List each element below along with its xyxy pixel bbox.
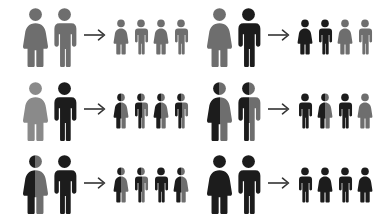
produces-arrow-icon [267,26,293,44]
cross-panel-2-2 [184,74,368,148]
offspring-group [297,19,373,55]
parent-female-figure [206,7,233,68]
offspring-female-figure [113,19,129,55]
parent-female-figure [22,7,49,68]
cross-panel-2-1 [0,74,184,148]
parent-pair [22,154,78,215]
parent-pair [206,7,262,68]
cross-panel-3-1 [0,148,184,221]
offspring-female-figure [297,19,313,55]
offspring-male-figure [317,19,333,55]
offspring-group [297,93,373,129]
offspring-female-figure [337,19,353,55]
offspring-male-figure [337,167,353,203]
parent-pair [206,154,262,215]
parent-male-figure [51,81,78,142]
offspring-male-figure [133,93,149,129]
parent-female-figure [206,154,233,215]
produces-arrow-icon [83,174,109,192]
cross-panel-1-1 [0,0,184,74]
offspring-group [297,167,373,203]
offspring-male-figure [297,167,313,203]
parent-male-figure [235,7,262,68]
produces-arrow-icon [83,26,109,44]
cross-panel-3-2 [184,148,368,221]
offspring-male-figure [357,19,373,55]
offspring-male-figure [337,93,353,129]
parent-pair [22,7,78,68]
parent-female-figure [206,81,233,142]
parent-female-figure [22,81,49,142]
offspring-female-figure [317,167,333,203]
parent-pair [206,81,262,142]
offspring-group [113,167,189,203]
produces-arrow-icon [267,100,293,118]
offspring-female-figure [357,93,373,129]
offspring-female-figure [153,19,169,55]
parent-male-figure [235,81,262,142]
offspring-male-figure [133,19,149,55]
cross-panel-1-2 [184,0,368,74]
offspring-female-figure [153,93,169,129]
offspring-group [113,93,189,129]
offspring-male-figure [297,93,313,129]
offspring-female-figure [113,167,129,203]
parent-male-figure [235,154,262,215]
parent-male-figure [51,154,78,215]
produces-arrow-icon [83,100,109,118]
parent-pair [22,81,78,142]
offspring-group [113,19,189,55]
offspring-male-figure [153,167,169,203]
parent-female-figure [22,154,49,215]
offspring-male-figure [133,167,149,203]
parent-male-figure [51,7,78,68]
offspring-female-figure [113,93,129,129]
produces-arrow-icon [267,174,293,192]
offspring-female-figure [317,93,333,129]
offspring-female-figure [357,167,373,203]
